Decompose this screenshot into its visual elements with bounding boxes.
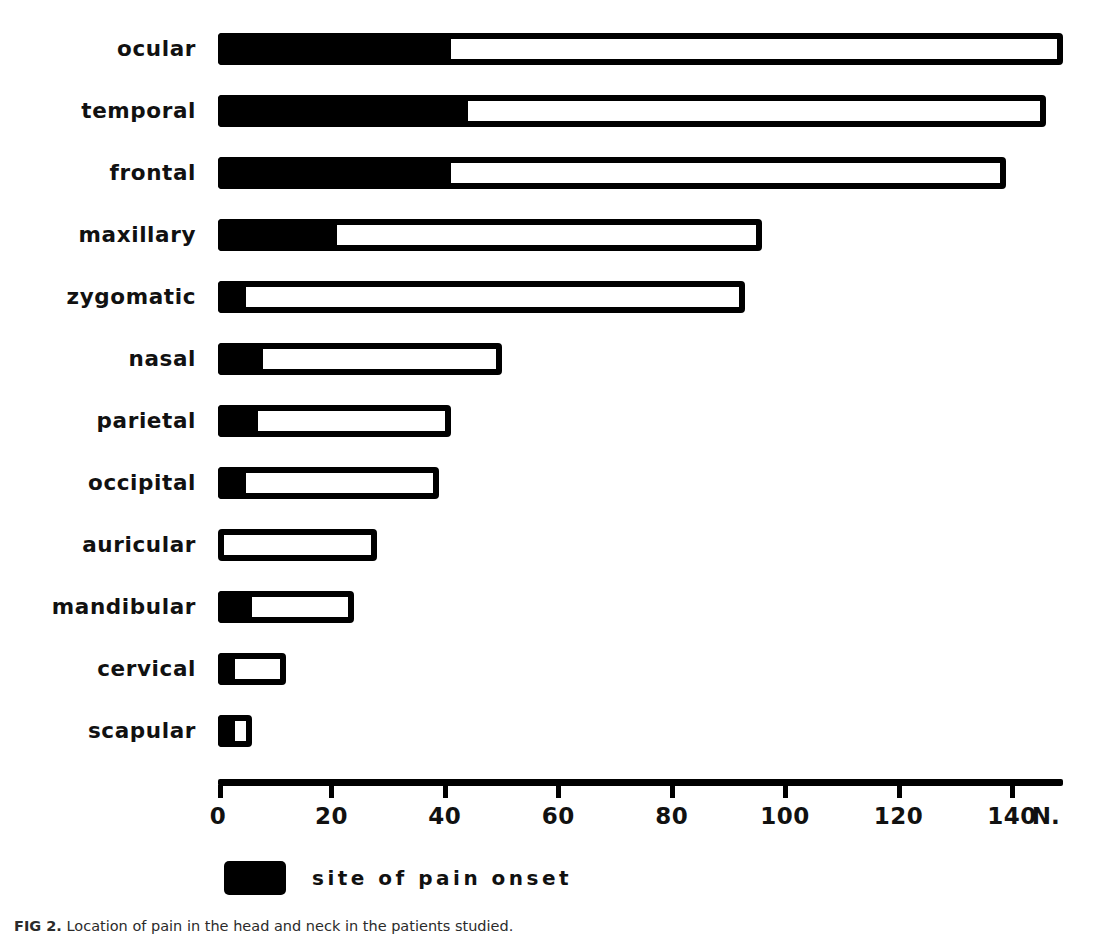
bar-row — [218, 653, 286, 685]
category-label-mandibular: mandibular — [52, 596, 196, 618]
bar-row — [218, 715, 252, 747]
bar-onset-nasal — [218, 343, 263, 375]
bar-total-occipital — [218, 467, 439, 499]
x-axis-tick-40 — [443, 785, 448, 798]
x-axis-tick-140 — [1010, 785, 1015, 798]
bar-row — [218, 157, 1006, 189]
bar-row — [218, 343, 502, 375]
x-axis-tick-80 — [670, 785, 675, 798]
bar-onset-ocular — [218, 33, 451, 65]
x-axis-tick-label-80: 80 — [655, 805, 688, 828]
bar-row — [218, 405, 451, 437]
bar-row — [218, 591, 354, 623]
x-axis-tick-60 — [556, 785, 561, 798]
x-axis-tick-label-100: 100 — [760, 805, 810, 828]
x-axis-tick-label-40: 40 — [428, 805, 461, 828]
caption-text: Location of pain in the head and neck in… — [62, 918, 513, 934]
bar-onset-temporal — [218, 95, 468, 127]
bar-onset-scapular — [218, 715, 235, 747]
x-axis-tick-20 — [329, 785, 334, 798]
x-axis-tick-label-0: 0 — [210, 805, 227, 828]
bar-row — [218, 95, 1046, 127]
x-axis-tick-label-20: 20 — [315, 805, 348, 828]
bar-onset-parietal — [218, 405, 258, 437]
x-axis-tick-label-140: 140 — [987, 805, 1037, 828]
category-label-scapular: scapular — [88, 720, 196, 742]
bar-onset-zygomatic — [218, 281, 246, 313]
bar-row — [218, 281, 745, 313]
x-axis-tick-0 — [218, 785, 223, 798]
bar-onset-occipital — [218, 467, 246, 499]
bar-row — [218, 467, 439, 499]
category-label-ocular: ocular — [117, 38, 196, 60]
category-label-parietal: parietal — [97, 410, 196, 432]
category-label-maxillary: maxillary — [79, 224, 196, 246]
bar-row — [218, 219, 762, 251]
legend-label: site of pain onset — [312, 866, 572, 890]
x-axis-unit-label: N. — [1032, 805, 1060, 828]
x-axis-tick-label-120: 120 — [874, 805, 924, 828]
bar-onset-mandibular — [218, 591, 252, 623]
caption-lead: FIG 2. — [14, 918, 62, 934]
category-label-occipital: occipital — [88, 472, 196, 494]
bar-onset-frontal — [218, 157, 451, 189]
category-label-auricular: auricular — [82, 534, 196, 556]
bar-total-zygomatic — [218, 281, 745, 313]
figure-caption: FIG 2. Location of pain in the head and … — [14, 918, 1094, 934]
legend-swatch-icon — [224, 861, 286, 895]
bar-onset-cervical — [218, 653, 235, 685]
category-label-zygomatic: zygomatic — [67, 286, 196, 308]
x-axis-line — [218, 779, 1063, 786]
bar-total-auricular — [218, 529, 377, 561]
legend: site of pain onset — [224, 861, 572, 895]
bar-onset-maxillary — [218, 219, 337, 251]
x-axis-tick-100 — [783, 785, 788, 798]
category-label-cervical: cervical — [97, 658, 196, 680]
category-label-frontal: frontal — [110, 162, 196, 184]
category-label-temporal: temporal — [81, 100, 196, 122]
x-axis-tick-120 — [897, 785, 902, 798]
category-label-nasal: nasal — [129, 348, 197, 370]
x-axis-tick-label-60: 60 — [542, 805, 575, 828]
bar-row — [218, 529, 377, 561]
bar-row — [218, 33, 1063, 65]
